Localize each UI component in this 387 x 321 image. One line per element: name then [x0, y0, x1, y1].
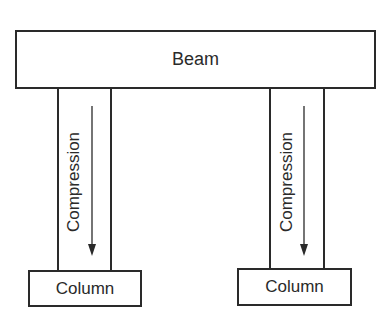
left-column-base: Column: [28, 270, 142, 307]
left-compression-label: Compression: [64, 132, 84, 232]
right-compression-arrow-icon: [298, 104, 310, 258]
right-compression-label: Compression: [277, 132, 297, 232]
beam-label: Beam: [172, 49, 219, 70]
left-column-label: Column: [56, 279, 115, 299]
right-column-label: Column: [265, 277, 324, 297]
right-column-base: Column: [237, 268, 352, 306]
beam: Beam: [15, 30, 376, 89]
left-compression-arrow-icon: [86, 104, 98, 258]
